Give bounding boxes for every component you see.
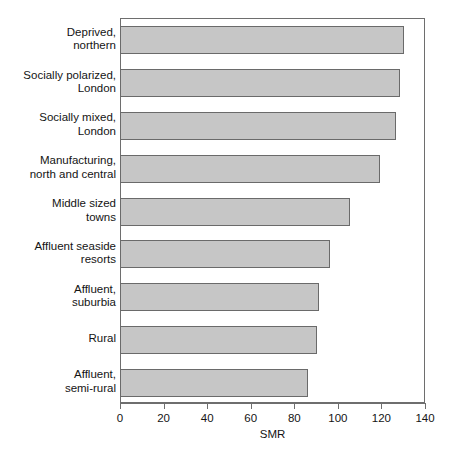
bar	[120, 283, 319, 311]
category-label: Rural	[0, 332, 116, 346]
category-label: Affluent, semi-rural	[0, 368, 116, 395]
x-axis-tick-label: 140	[415, 412, 434, 424]
category-label: Socially mixed, London	[0, 111, 116, 138]
x-axis-tick	[338, 403, 339, 409]
bar	[120, 26, 404, 54]
bars-layer	[121, 19, 424, 402]
category-label: Deprived, northern	[0, 26, 116, 53]
category-label: Affluent seaside resorts	[0, 240, 116, 267]
x-axis-tick-label: 100	[328, 412, 347, 424]
bar	[120, 69, 400, 97]
bar	[120, 326, 317, 354]
x-axis-tick-label: 120	[372, 412, 391, 424]
bar	[120, 155, 380, 183]
x-axis-tick	[207, 403, 208, 409]
x-axis-tick-label: 80	[288, 412, 301, 424]
category-label: Manufacturing, north and central	[0, 154, 116, 181]
x-axis-tick	[381, 403, 382, 409]
category-label: Affluent, suburbia	[0, 283, 116, 310]
x-axis-tick-label: 40	[201, 412, 214, 424]
x-axis-tick	[120, 403, 121, 409]
plot-area	[120, 18, 425, 403]
bar	[120, 112, 396, 140]
x-axis-tick-label: 0	[117, 412, 123, 424]
x-axis: 020406080100120140	[120, 403, 425, 404]
x-axis-tick-label: 60	[244, 412, 257, 424]
x-axis-tick	[294, 403, 295, 409]
x-axis-tick	[251, 403, 252, 409]
bar	[120, 240, 330, 268]
bar	[120, 369, 308, 397]
category-axis-labels: Deprived, northernSocially polarized, Lo…	[0, 18, 116, 403]
x-axis-tick-label: 20	[157, 412, 170, 424]
x-axis-tick	[425, 403, 426, 409]
category-label: Socially polarized, London	[0, 69, 116, 96]
bar	[120, 198, 350, 226]
x-axis-title: SMR	[120, 428, 425, 440]
category-label: Middle sized towns	[0, 197, 116, 224]
smr-bar-chart: Deprived, northernSocially polarized, Lo…	[0, 0, 455, 463]
x-axis-tick	[164, 403, 165, 409]
